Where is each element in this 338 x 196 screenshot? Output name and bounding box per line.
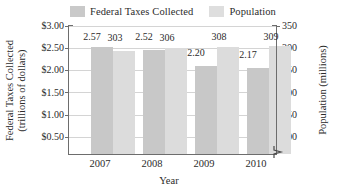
value-label-taxes-2008: 2.52 [132, 32, 156, 42]
left-axis-tick-2_00: $2.00 [42, 65, 65, 75]
left-axis-tick-1_00: $1.00 [42, 110, 65, 120]
left-axis-tick-1_50: $1.50 [42, 88, 65, 98]
legend-swatch-icon-taxes [70, 6, 85, 17]
x-tick-label-2008: 2008 [130, 158, 174, 169]
plot-area [68, 26, 276, 155]
bar-population-2007 [113, 51, 135, 154]
legend-label-population: Population [229, 6, 276, 17]
bar-taxes-2007 [91, 47, 113, 154]
x-tick-label-2007: 2007 [78, 158, 122, 169]
value-label-population-2010: 309 [259, 32, 283, 42]
value-label-population-2009: 308 [207, 32, 231, 42]
x-tick-label-2009: 2009 [182, 158, 226, 169]
value-label-taxes-2007: 2.57 [80, 32, 104, 42]
value-label-population-2007: 303 [103, 33, 127, 43]
bar-taxes-2010 [247, 68, 269, 154]
tick-left-6 [65, 137, 69, 138]
left-axis-tick-2_50: $2.50 [42, 43, 65, 53]
legend-item-federal-taxes-collected: Federal Taxes Collected [70, 6, 193, 17]
bar-population-2010 [269, 46, 291, 154]
x-tick-label-2010: 2010 [234, 158, 278, 169]
legend-swatch-icon-population [209, 6, 224, 17]
gridline-1 [69, 26, 276, 27]
bar-taxes-2008 [143, 50, 165, 154]
tick-left-3 [65, 70, 69, 71]
value-label-taxes-2010: 2.17 [236, 50, 260, 60]
right-axis-title: Population (millions) [316, 30, 330, 150]
tick-left-2 [65, 48, 69, 49]
tick-left-1 [65, 26, 69, 27]
right-axis-line [276, 26, 277, 155]
tick-left-5 [65, 115, 69, 116]
bar-chart: Federal Taxes Collected Population $3.00… [0, 0, 338, 196]
bar-population-2009 [217, 47, 239, 154]
left-axis-tick-3_00: $3.00 [42, 21, 65, 31]
bar-taxes-2009 [195, 66, 217, 154]
legend-item-population: Population [209, 6, 276, 17]
chart-legend: Federal Taxes Collected Population [70, 3, 300, 19]
tick-left-4 [65, 92, 69, 93]
legend-label-taxes: Federal Taxes Collected [90, 6, 193, 17]
left-axis-title: Federal Taxes Collected (trillions of do… [2, 26, 30, 155]
x-axis-title: Year [0, 175, 338, 186]
bar-population-2008 [165, 48, 187, 154]
left-axis-title-line2: (trillions of dollars) [16, 49, 28, 131]
left-axis-tick-0_50: $0.50 [42, 132, 65, 142]
axis-break-icon [272, 145, 284, 159]
right-axis-tick-350: 350 [282, 21, 297, 31]
left-axis-title-line1: Federal Taxes Collected [4, 40, 16, 141]
value-label-population-2008: 306 [155, 33, 179, 43]
value-label-taxes-2009: 2.20 [184, 48, 208, 58]
